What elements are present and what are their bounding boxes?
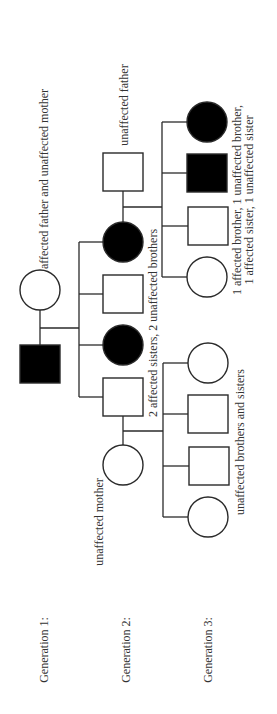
gen2-mother-note: unaffected mother [92, 478, 106, 565]
g3-right-son-affected-affected-male-square [187, 154, 227, 192]
gen1-parents-note: affected father and unaffected mother [37, 89, 51, 269]
gen3-label: Generation 3: [201, 617, 215, 683]
g2-spouse-father-unaffected-male-square [103, 153, 143, 191]
pedigree-diagram: Generation 1:Generation 2:Generation 3:a… [0, 0, 277, 714]
g2-son-2-unaffected-male-square [103, 378, 143, 416]
g1-mother-unaffected-female-circle [20, 270, 60, 310]
gen2-father-note: unaffected father [117, 64, 131, 145]
g3-left-son-2-unaffected-male-square [189, 447, 229, 485]
g3-right-daughter-unaffected-unaffected-female-circle [187, 257, 227, 297]
gen1-label: Generation 1: [37, 617, 51, 683]
g1-father-affected-male-square [20, 345, 60, 383]
g3-right-daughter-affected-affected-female-circle [187, 102, 227, 142]
gen3-right-note-line2: 1 affected sister, 1 unaffected sister [242, 115, 256, 284]
g2-daughter-2-affected-female-circle [103, 325, 143, 365]
g3-left-daughter-2-unaffected-female-circle [188, 497, 228, 537]
g3-left-daughter-1-unaffected-female-circle [188, 343, 228, 383]
g3-left-son-1-unaffected-male-square [188, 395, 228, 433]
individual-symbols [20, 102, 229, 537]
g2-son-1-unaffected-male-square [103, 275, 143, 313]
gen2-siblings-note: 2 affected sisters, 2 unaffected brother… [146, 229, 160, 417]
g2-daughter-1-affected-female-circle [103, 222, 143, 262]
gen2-label: Generation 2: [119, 617, 133, 683]
gen3-left-note: unaffected brothers and sisters [233, 369, 247, 515]
g3-right-son-unaffected-unaffected-male-square [188, 207, 228, 245]
g2-spouse-mother-unaffected-female-circle [103, 445, 143, 485]
